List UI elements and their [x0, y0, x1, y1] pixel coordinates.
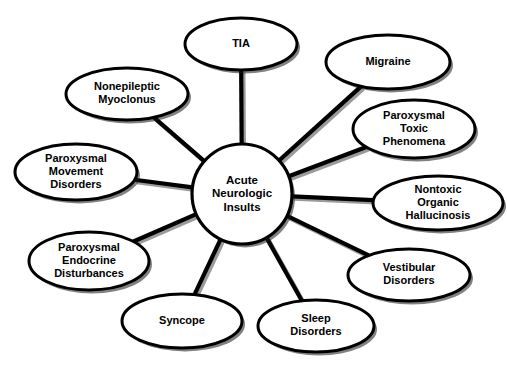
node-paroxysmal-endocrine-disturbances-shape[interactable]	[29, 232, 149, 290]
node-paroxysmal-toxic-phenomena-shape[interactable]	[353, 100, 475, 158]
connector-vestibular-disorders[interactable]	[287, 216, 369, 256]
node-tia-shape[interactable]	[185, 18, 297, 70]
connector-syncope[interactable]	[194, 239, 220, 294]
node-syncope-shape[interactable]	[122, 294, 242, 348]
concept-map-svg: TIAMigraineParoxysmalToxicPhenomenaNonto…	[0, 0, 507, 370]
node-paroxysmal-movement-disorders-shape[interactable]	[15, 144, 137, 200]
caption-remnant	[40, 358, 470, 368]
node-paroxysmal-endocrine-disturbances[interactable]: ParoxysmalEndocrineDisturbances	[29, 232, 149, 290]
connector-paroxysmal-toxic-phenomena[interactable]	[289, 147, 366, 176]
node-sleep-disorders-shape[interactable]	[258, 300, 374, 352]
connector-shadow	[136, 216, 199, 243]
node-nonepileptic-myoclonus-shape[interactable]	[66, 68, 188, 120]
node-nonepileptic-myoclonus[interactable]: NonepilepticMyoclonus	[66, 68, 188, 120]
node-syncope[interactable]: Syncope	[122, 294, 242, 348]
node-paroxysmal-toxic-phenomena[interactable]: ParoxysmalToxicPhenomena	[353, 100, 475, 158]
node-tia[interactable]: TIA	[185, 18, 297, 70]
hub-acute-neurologic-insults-shape[interactable]	[192, 144, 292, 244]
hub-acute-neurologic-insults[interactable]: AcuteNeurologicInsults	[192, 144, 292, 244]
connector-paroxysmal-endocrine-disturbances[interactable]	[133, 214, 196, 241]
diagram-canvas: TIAMigraineParoxysmalToxicPhenomenaNonto…	[0, 0, 507, 370]
connector-shadow	[291, 149, 368, 178]
node-vestibular-disorders[interactable]: VestibularDisorders	[348, 249, 470, 301]
node-vestibular-disorders-shape[interactable]	[348, 249, 470, 301]
node-sleep-disorders[interactable]: SleepDisorders	[258, 300, 374, 352]
node-nontoxic-organic-hallucinosis-shape[interactable]	[373, 176, 503, 230]
connector-sleep-disorders[interactable]	[266, 238, 301, 301]
connector-migraine[interactable]	[279, 86, 361, 160]
node-migraine[interactable]: Migraine	[326, 35, 450, 89]
connector-nonepileptic-myoclonus[interactable]	[154, 117, 204, 161]
connector-shadow	[197, 242, 223, 297]
node-migraine-shape[interactable]	[326, 35, 450, 89]
node-nontoxic-organic-hallucinosis[interactable]: NontoxicOrganicHallucinosis	[373, 176, 503, 230]
node-paroxysmal-movement-disorders[interactable]: ParoxysmalMovementDisorders	[15, 144, 137, 200]
